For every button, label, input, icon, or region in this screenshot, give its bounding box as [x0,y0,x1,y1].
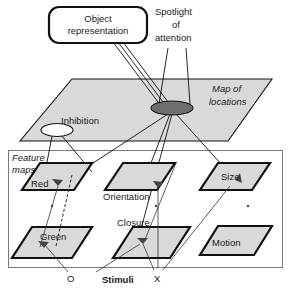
feature-map-closure-plane [113,227,190,258]
feature-map-label-orientation: Orientation [103,191,149,202]
map-of-locations-label-line2: locations [209,96,247,107]
feature-map-label-closure: Closure [117,217,150,228]
ellipsis-dot [51,205,53,207]
feature-maps-label-line1: Feature [12,152,45,163]
spotlight-of-attention-label-line1: Spotlight [155,6,192,17]
stimulus-o-label: O [67,273,74,284]
feature-map-label-motion: Motion [212,237,241,248]
diagram-canvas: Object representation Spotlight of atten… [0,0,291,293]
attention-model-diagram: Object representation Spotlight of atten… [0,0,291,293]
feature-map-label-green: Green [40,231,66,242]
feature-maps-label-line2: maps [12,164,35,175]
feature-map-orientation-plane [105,163,175,190]
stimuli-label: Stimuli [102,274,134,285]
object-representation-label-line2: representation [68,25,129,36]
spotlight-of-attention-label-line2: of [172,19,180,30]
stimulus-x-label: X [154,273,161,284]
feature-map-label-size: Size [221,171,239,182]
ellipsis-dot [155,205,157,207]
map-of-locations-label-line1: Map of [212,83,242,94]
ellipsis-dot [247,205,249,207]
spotlight-of-attention-ellipse [151,101,193,115]
object-representation-label-line1: Object [84,13,112,24]
inhibition-label: Inhibition [61,115,99,126]
spotlight-of-attention-label-line3: attention [155,32,191,43]
feature-map-label-red: Red [31,178,48,189]
